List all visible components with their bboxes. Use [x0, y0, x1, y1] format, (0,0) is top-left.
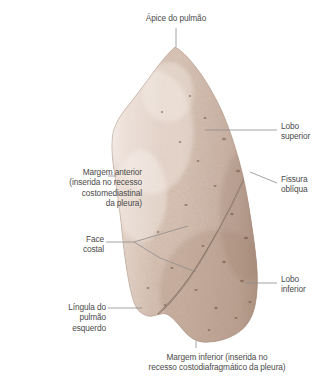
leader-oblique-fissure	[250, 172, 277, 183]
label-apex-of-lung: Ápice do pulmão	[117, 13, 235, 23]
anatomical-figure: Ápice do pulmão Lobo superior Fissura ob…	[0, 0, 331, 386]
label-oblique-fissure: Fissura oblíqua	[281, 174, 331, 195]
label-superior-lobe: Lobo superior	[281, 121, 331, 142]
inferior-lobe-shading	[160, 230, 276, 354]
label-inferior-lobe: Lobo inferior	[281, 274, 331, 295]
label-costal-surface: Face costal	[38, 234, 104, 255]
label-lingula: Língula do pulmão esquerdo	[26, 302, 106, 333]
label-inferior-margin: Margem inferior (inserida no recesso cos…	[103, 352, 331, 373]
label-anterior-margin: Margem anterior (inserida no recesso cos…	[8, 167, 142, 209]
